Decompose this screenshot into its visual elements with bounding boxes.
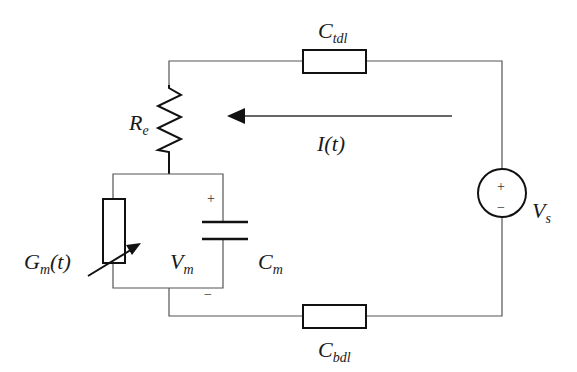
gm-label: Gm(t): [24, 249, 71, 277]
vm-plus-sign: +: [207, 191, 215, 206]
c-bdl-label: Cbdl: [318, 337, 351, 365]
c-tdl-label: Ctdl: [318, 18, 348, 46]
vm-minus-sign: −: [204, 287, 212, 302]
resistor-re: [158, 85, 181, 174]
vm-label: Vm: [170, 249, 194, 277]
c-tdl-box: [303, 50, 366, 73]
re-label: Re: [128, 110, 149, 138]
cm-label: Cm: [258, 249, 283, 277]
vs-label: Vs: [532, 198, 551, 226]
gm-box: [103, 199, 125, 263]
vs-minus-sign: −: [497, 200, 505, 215]
c-bdl-box: [303, 305, 366, 328]
current-arrow: [227, 108, 452, 124]
vs-plus-sign: +: [497, 179, 505, 194]
current-label: I(t): [316, 131, 345, 156]
membrane-block: [113, 174, 502, 316]
circuit-diagram: Ctdl Re I(t) Gm(t) + − Vm Cm Cbdl + − Vs: [0, 0, 577, 372]
